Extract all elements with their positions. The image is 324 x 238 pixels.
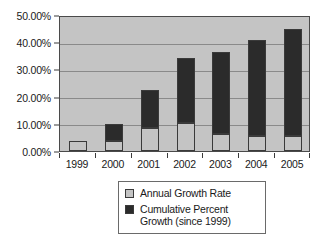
legend-swatch-annual-growth-rate [125,189,134,198]
y-axis: 0.00%10.00%20.00%30.00%40.00%50.00% [0,0,59,170]
x-axis-tick-mark [167,153,168,158]
x-axis-tick-mark [131,153,132,158]
bar-segment-cumulative-growth [284,29,302,136]
x-axis-tick-mark [95,153,96,158]
bar-group [248,15,266,151]
x-axis-tick-label: 2000 [102,158,125,170]
x-axis-tick-label: 2001 [137,158,160,170]
legend-label-cumulative-growth: Cumulative PercentGrowth (since 1999) [140,203,231,227]
x-axis-tick-mark [202,153,203,158]
y-axis-tick-label: 10.00% [17,119,51,131]
bar-segment-annual-growth-rate [69,141,87,151]
x-axis-tick-label: 2004 [245,158,268,170]
x-axis-tick-label: 2005 [281,158,304,170]
bar-segment-cumulative-growth [141,90,159,128]
legend-label-line-1: Cumulative Percent [140,203,228,215]
x-axis-tick-label: 2003 [209,158,232,170]
y-axis-tick-label: 20.00% [17,92,51,104]
legend-label-annual-growth-rate: Annual Growth Rate [140,187,231,199]
growth-rate-bar-chart: 0.00%10.00%20.00%30.00%40.00%50.00% 1999… [0,0,324,238]
bar-segment-annual-growth-rate [141,128,159,151]
x-axis-tick-mark [309,153,310,158]
bar-segment-annual-growth-rate [284,136,302,151]
legend-swatch-cumulative-growth [125,205,134,214]
bar-segment-cumulative-growth [177,58,195,123]
x-axis-tick-label: 1999 [66,158,89,170]
bar-segment-annual-growth-rate [248,136,266,151]
bar-group [284,15,302,151]
y-axis-tick-label: 40.00% [17,37,51,49]
x-axis-tick-mark [238,153,239,158]
legend-label-line-2: Growth (since 1999) [140,215,231,227]
bar-segment-annual-growth-rate [177,123,195,151]
bar-segment-cumulative-growth [105,124,123,141]
chart-legend: Annual Growth Rate Cumulative PercentGro… [118,181,266,234]
plot-area [59,16,310,152]
bar-group [212,15,230,151]
y-axis-tick-label: 50.00% [17,10,51,22]
bar-group [177,15,195,151]
y-axis-tick-label: 30.00% [17,64,51,76]
bar-segment-annual-growth-rate [212,134,230,151]
y-axis-tick-label: 0.00% [22,146,51,158]
bar-segment-cumulative-growth [212,52,230,134]
bar-segment-annual-growth-rate [105,141,123,151]
legend-item-cumulative-growth: Cumulative PercentGrowth (since 1999) [125,203,259,227]
bar-group [105,15,123,151]
x-axis-tick-label: 2002 [173,158,196,170]
x-axis: 1999200020012002200320042005 [59,153,310,173]
x-axis-tick-mark [274,153,275,158]
bar-group [69,15,87,151]
bar-group [141,15,159,151]
bar-segment-cumulative-growth [248,40,266,136]
legend-item-annual-growth-rate: Annual Growth Rate [125,187,259,199]
x-axis-tick-mark [59,153,60,158]
